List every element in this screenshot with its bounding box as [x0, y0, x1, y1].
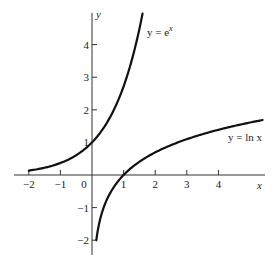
y-tick-label: −2 — [77, 234, 89, 246]
chart-root: −2−101234 −2−11234 x y y = ex y = ln x — [0, 0, 278, 267]
x-tick-label: −1 — [55, 178, 67, 190]
y-tick-label: 4 — [84, 39, 90, 51]
exp-curve-label: y = ex — [147, 24, 173, 38]
x-tick-label: 1 — [121, 178, 127, 190]
exp-curve — [29, 14, 143, 171]
x-tick-label: 3 — [184, 178, 190, 190]
x-tick-label: 0 — [81, 178, 87, 190]
x-ticks: −2−101234 — [23, 170, 222, 190]
x-tick-label: 2 — [152, 178, 158, 190]
x-tick-label: −2 — [23, 178, 35, 190]
x-axis-label: x — [256, 179, 262, 191]
y-tick-label: 2 — [84, 104, 90, 116]
y-tick-label: −1 — [77, 202, 89, 214]
y-tick-label: 3 — [84, 71, 90, 83]
y-ticks: −2−11234 — [77, 39, 97, 247]
y-axis-label: y — [95, 8, 101, 20]
exp-superscript: x — [168, 24, 173, 33]
ln-curve-label: y = ln x — [228, 131, 263, 143]
chart-svg: −2−101234 −2−11234 x y y = ex y = ln x — [0, 0, 278, 267]
x-tick-label: 4 — [216, 178, 222, 190]
